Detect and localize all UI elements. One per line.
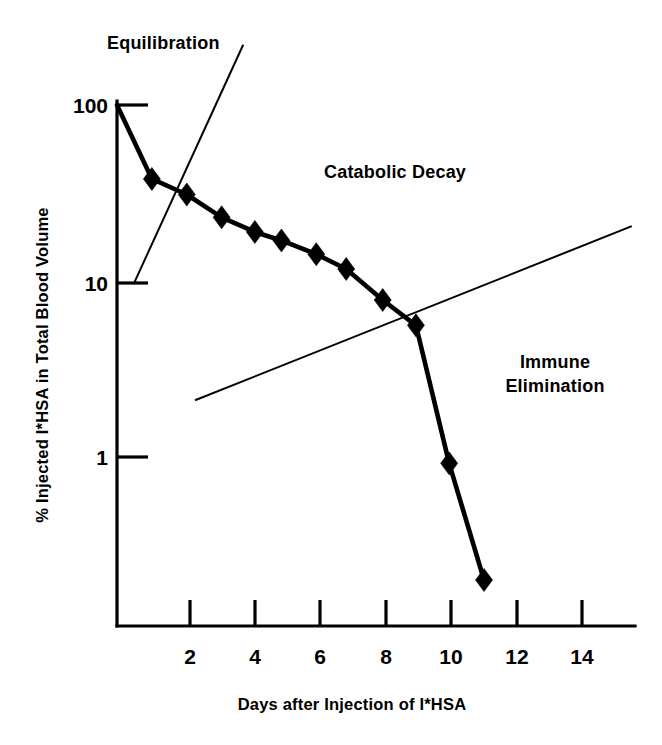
immune-elimination-label-line2: Elimination <box>505 376 604 396</box>
x-tick-label-4: 4 <box>249 645 261 668</box>
immune-elimination-label-line1: Immune <box>520 352 590 372</box>
x-tick-label-14: 14 <box>570 645 594 668</box>
x-tick-label-8: 8 <box>380 645 392 668</box>
x-tick-label-6: 6 <box>314 645 326 668</box>
y-tick-label-1: 1 <box>96 446 108 469</box>
chart-svg: 100 10 1 2 4 6 8 10 12 14 <box>0 0 662 745</box>
y-tick-label-100: 100 <box>73 94 108 117</box>
x-tick-label-2: 2 <box>184 645 196 668</box>
chart-figure: 100 10 1 2 4 6 8 10 12 14 <box>0 0 662 745</box>
x-tick-label-10: 10 <box>439 645 462 668</box>
y-tick-label-10: 10 <box>85 272 108 295</box>
y-axis-title: % Injected I*HSA in Total Blood Volume <box>33 207 51 522</box>
x-tick-label-12: 12 <box>505 645 528 668</box>
x-axis-title: Days after Injection of I*HSA <box>238 695 467 713</box>
equilibration-label: Equilibration <box>107 33 220 53</box>
catabolic-decay-label: Catabolic Decay <box>324 162 466 182</box>
